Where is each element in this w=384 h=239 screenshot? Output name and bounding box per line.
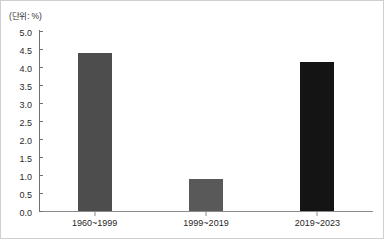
y-tick-label: 2.5 xyxy=(19,118,39,128)
y-tick-label: 0.5 xyxy=(19,190,39,200)
y-tick: 2.5 xyxy=(19,112,39,130)
y-tick-mark xyxy=(39,157,43,158)
y-tick-label: 2.0 xyxy=(19,136,39,146)
y-tick: 3.0 xyxy=(19,94,39,112)
y-tick-label: 3.5 xyxy=(19,82,39,92)
x-tick-mark xyxy=(317,212,318,216)
y-tick-mark xyxy=(39,67,43,68)
y-tick-mark xyxy=(39,121,43,122)
y-tick-label: 4.0 xyxy=(19,64,39,74)
y-tick-mark xyxy=(39,193,43,194)
bar xyxy=(78,53,112,211)
bar xyxy=(300,62,334,211)
chart-figure: (단위: %) 0.00.51.01.52.02.53.03.54.04.55.… xyxy=(0,0,384,239)
y-tick: 0.0 xyxy=(19,202,39,220)
y-tick-mark xyxy=(39,85,43,86)
y-tick-label: 0.0 xyxy=(19,208,39,218)
x-tick-label: 2019~2023 xyxy=(295,218,340,228)
x-tick-label: 1999~2019 xyxy=(183,218,228,228)
y-tick-mark xyxy=(39,211,43,212)
y-tick-mark xyxy=(39,139,43,140)
plot-area: 0.00.51.01.52.02.53.03.54.04.55.0 xyxy=(39,31,373,211)
y-tick: 5.0 xyxy=(19,22,39,40)
y-tick-label: 1.0 xyxy=(19,172,39,182)
y-tick: 4.5 xyxy=(19,40,39,58)
x-tick-mark xyxy=(206,212,207,216)
y-tick-mark xyxy=(39,31,43,32)
y-tick: 3.5 xyxy=(19,76,39,94)
y-tick-label: 4.5 xyxy=(19,46,39,56)
y-tick: 1.0 xyxy=(19,166,39,184)
x-tick-mark xyxy=(94,212,95,216)
y-tick: 0.5 xyxy=(19,184,39,202)
bar xyxy=(189,179,223,211)
y-tick: 4.0 xyxy=(19,58,39,76)
y-tick: 1.5 xyxy=(19,148,39,166)
unit-label: (단위: %) xyxy=(9,9,42,21)
y-tick-label: 3.0 xyxy=(19,100,39,110)
y-tick-mark xyxy=(39,175,43,176)
y-tick-label: 5.0 xyxy=(19,28,39,38)
y-tick-mark xyxy=(39,103,43,104)
y-tick: 2.0 xyxy=(19,130,39,148)
y-tick-mark xyxy=(39,49,43,50)
x-tick-label: 1960~1999 xyxy=(72,218,117,228)
y-tick-label: 1.5 xyxy=(19,154,39,164)
